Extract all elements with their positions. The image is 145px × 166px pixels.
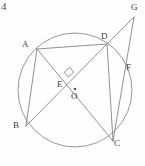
center-dot-o xyxy=(74,88,77,91)
figure-root: 4 A B C D E F G O xyxy=(0,0,145,166)
diagonal-bd xyxy=(26,44,107,126)
right-angle-square xyxy=(64,67,73,77)
chord-ad xyxy=(37,44,107,49)
point-label-f: F xyxy=(126,63,131,72)
point-label-c: C xyxy=(114,139,120,148)
point-label-g: G xyxy=(131,3,138,12)
point-label-e: E xyxy=(57,80,63,89)
point-label-a: A xyxy=(22,40,29,49)
point-label-o: O xyxy=(71,92,78,101)
chord-ab xyxy=(26,49,37,126)
geometry-canvas xyxy=(0,0,145,166)
right-angle-marker-at-e xyxy=(64,67,73,77)
segments-group xyxy=(26,17,134,141)
center-dot-group xyxy=(74,88,77,91)
chord-dc xyxy=(107,44,113,141)
point-label-d: D xyxy=(101,32,108,41)
point-label-b: B xyxy=(13,121,19,130)
